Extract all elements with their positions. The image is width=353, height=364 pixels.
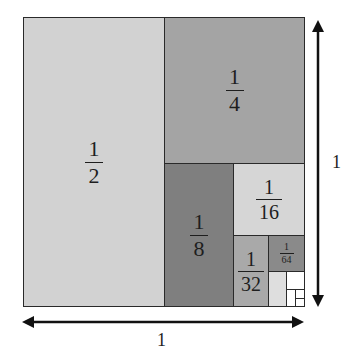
width-arrow-icon bbox=[22, 316, 304, 328]
width-label: 1 bbox=[157, 330, 166, 351]
height-arrow-icon bbox=[312, 20, 324, 307]
dimension-arrows bbox=[0, 0, 353, 364]
height-label: 1 bbox=[332, 152, 341, 173]
